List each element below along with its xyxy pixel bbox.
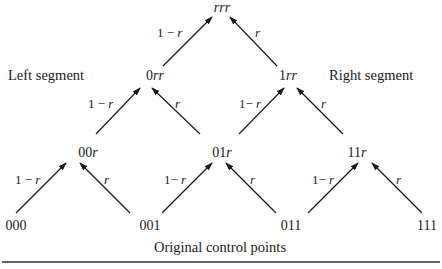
node-111: 111 [417,218,437,233]
edge-weight-label: 1 − r [15,172,41,187]
node-00r: 00r [78,145,98,160]
node-011: 011 [281,218,301,233]
arrow-icon [96,88,140,134]
node-rrr: rrr [214,0,231,15]
arrow-icon [162,163,212,213]
edge-01r-0rr: r [152,88,200,134]
node-001: 001 [140,218,161,233]
edge-weight-label: 1− r [312,172,335,187]
edge-11r-1rr: r [297,88,343,134]
edge-weight-label: 1 − r [88,96,114,111]
node-000: 000 [6,218,27,233]
edge-weight-label: 1− r [164,172,187,187]
node-0rr: 0rr [146,68,164,83]
arrow-icon [226,163,276,213]
arrow-icon [239,88,284,134]
edge-001-01r: 1− r [162,163,212,213]
edge-weight-label: 1− r [239,96,262,111]
edge-weight-label: r [321,96,327,111]
edge-1rr-rrr: r [230,17,277,66]
arrow-icon [80,163,130,213]
arrow-icon [308,163,358,213]
edge-000-00r: 1 − r [15,163,66,213]
edge-111-11r: r [372,163,422,213]
edge-weight-label: r [255,25,261,40]
edge-011-11r: 1− r [308,163,358,213]
arrow-icon [16,163,66,213]
left-segment-label: Left segment [8,67,84,83]
node-11r: 11r [348,145,367,160]
edge-00r-0rr: 1 − r [88,88,140,134]
edge-01r-1rr: 1− r [239,88,284,134]
edge-weight-label: r [396,172,402,187]
original-control-points-caption: Original control points [154,239,286,255]
arrow-icon [372,163,422,213]
edge-001-00r: r [80,163,130,213]
edge-011-01r: r [226,163,276,213]
node-01r: 01r [212,145,232,160]
arrow-icon [230,17,277,66]
edge-weight-label: r [175,96,181,111]
blossom-triangle-diagram: Left segment Right segment 1 − r r 1 − r… [0,0,442,269]
right-segment-label: Right segment [329,67,413,83]
edge-weight-label: 1 − r [157,25,183,40]
arrow-icon [152,88,200,134]
arrow-icon [297,88,343,134]
edge-0rr-rrr: 1 − r [157,17,212,66]
node-1rr: 1rr [279,68,297,83]
edge-weight-label: r [104,172,110,187]
edge-weight-label: r [250,172,256,187]
